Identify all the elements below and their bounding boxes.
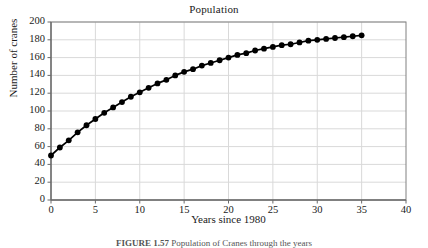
figure-caption-text: Population of Cranes through the years: [171, 238, 312, 248]
data-point: [305, 38, 311, 44]
y-tick-label: 20: [15, 175, 45, 186]
data-point: [66, 137, 72, 143]
data-point: [288, 41, 294, 47]
data-point: [252, 48, 258, 54]
data-point: [137, 89, 143, 95]
data-point: [128, 94, 134, 100]
data-point: [217, 57, 223, 63]
y-tick-label: 200: [15, 15, 45, 26]
series-line: [51, 35, 362, 155]
data-point: [101, 110, 107, 116]
data-point: [208, 60, 214, 66]
y-tick-label: 100: [15, 104, 45, 115]
data-point: [48, 153, 54, 159]
data-point: [163, 77, 169, 83]
data-point: [341, 34, 347, 40]
data-point: [359, 32, 365, 38]
data-point: [146, 85, 152, 91]
y-tick-label: 40: [15, 157, 45, 168]
data-point: [234, 52, 240, 58]
data-point: [323, 36, 329, 42]
y-tick-label: 180: [15, 33, 45, 44]
y-tick-label: 140: [15, 68, 45, 79]
data-point: [172, 73, 178, 79]
data-point: [75, 129, 81, 135]
data-point: [297, 40, 303, 46]
data-point: [84, 122, 90, 128]
data-point: [181, 69, 187, 75]
data-point: [332, 35, 338, 41]
data-point: [119, 99, 125, 105]
data-point: [279, 42, 285, 48]
data-point: [190, 66, 196, 72]
y-tick-label: 80: [15, 122, 45, 133]
data-point: [57, 145, 63, 151]
x-axis-label: Years since 1980: [51, 213, 406, 225]
data-point: [314, 37, 320, 43]
data-point: [261, 46, 267, 52]
data-point: [350, 33, 356, 39]
data-point: [155, 81, 161, 87]
y-tick-label: 0: [15, 193, 45, 204]
data-point: [243, 50, 249, 56]
data-point: [199, 63, 205, 69]
y-tick-label: 120: [15, 86, 45, 97]
data-point: [92, 116, 98, 122]
y-tick-label: 60: [15, 140, 45, 151]
data-point: [226, 55, 232, 61]
y-tick-label: 160: [15, 51, 45, 62]
figure-caption-label: FIGURE 1.57: [116, 238, 169, 248]
figure-caption: FIGURE 1.57 Population of Cranes through…: [0, 238, 428, 248]
data-point: [270, 44, 276, 50]
data-point: [110, 105, 116, 111]
